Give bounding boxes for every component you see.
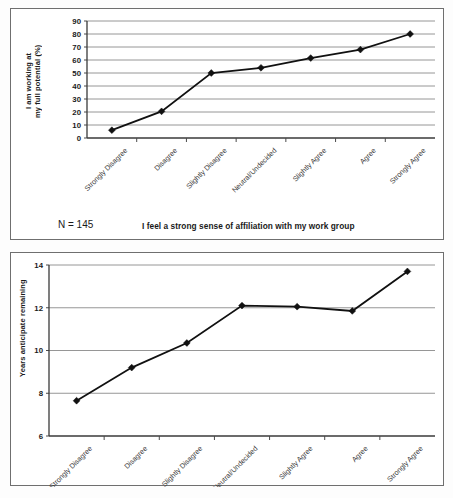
chart-area-bottom: Years anticipate remaining 68101214Stron… (11, 253, 443, 485)
x-axis-category-label: Neutral/Undecided (230, 146, 278, 194)
data-point-marker (294, 303, 301, 310)
y-axis-tick-label: 30 (72, 95, 81, 104)
y-axis-tick-label: 14 (34, 261, 43, 270)
x-axis-category-label: Agree (350, 444, 370, 464)
data-series-line (77, 271, 408, 400)
y-axis-tick-label: 20 (72, 108, 81, 117)
x-axis-category-label: Disagree (122, 444, 149, 471)
y-axis-tick-label: 70 (72, 43, 81, 52)
x-axis-category-label: Agree (358, 146, 378, 166)
line-chart-top: 0102030405060708090Strongly DisagreeDisa… (11, 9, 445, 241)
y-axis-tick-label: 40 (72, 82, 81, 91)
x-axis-category-label: Disagree (152, 146, 179, 173)
y-axis-tick-label: 10 (34, 346, 43, 355)
x-axis-category-label: Strongly Disagree (47, 444, 94, 487)
x-axis-category-label: Strongly Agree (388, 146, 428, 186)
sample-size-top: N = 145 (58, 219, 93, 230)
x-axis-category-label: Slightly Disagree (160, 444, 205, 487)
y-axis-tick-label: 90 (72, 17, 81, 26)
figure-page: I am working at my full potential (%) 01… (0, 0, 453, 498)
data-point-marker (108, 127, 115, 134)
y-axis-tick-label: 80 (72, 30, 81, 39)
data-point-marker (258, 64, 265, 71)
y-axis-tick-label: 60 (72, 56, 81, 65)
chart-panel-top: I am working at my full potential (%) 01… (10, 8, 444, 240)
y-axis-tick-label: 12 (34, 304, 43, 313)
y-axis-tick-label: 0 (77, 134, 82, 143)
y-axis-tick-label: 50 (72, 69, 81, 78)
line-chart-bottom: 68101214Strongly DisagreeDisagreeSlightl… (11, 253, 445, 487)
chart-panel-bottom: Years anticipate remaining 68101214Stron… (10, 252, 444, 486)
y-axis-tick-label: 10 (72, 121, 81, 130)
data-series-line (112, 34, 410, 130)
x-axis-category-label: Strongly Agree (385, 444, 425, 484)
data-point-marker (407, 31, 414, 38)
x-axis-caption-top: I feel a strong sense of affiliation wit… (142, 221, 355, 231)
x-axis-category-label: Slightly Disagree (184, 146, 229, 191)
x-axis-category-label: Slightly Agree (291, 146, 328, 183)
x-axis-category-label: Strongly Disagree (83, 146, 130, 193)
y-axis-tick-label: 8 (39, 389, 44, 398)
x-axis-category-label: Slightly Agree (277, 444, 314, 481)
x-axis-category-label: Neutral/Undecided (211, 444, 259, 487)
chart-area-top: I am working at my full potential (%) 01… (11, 9, 443, 239)
y-axis-tick-label: 6 (39, 432, 44, 441)
